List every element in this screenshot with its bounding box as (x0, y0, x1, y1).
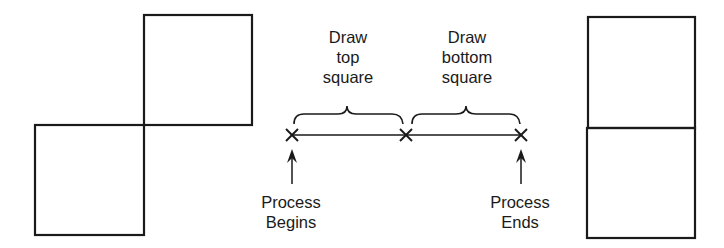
label-draw-bottom-square: Draw bottom square (442, 27, 492, 87)
brace-bottom-square (412, 106, 520, 124)
right-bottom-square (587, 128, 695, 238)
left-bottom-square (35, 125, 144, 235)
label-process-begins: Process Begins (261, 192, 321, 232)
brace-top-square (294, 106, 403, 124)
label-process-ends: Process Ends (490, 192, 550, 232)
left-top-square (144, 15, 252, 125)
label-draw-top-square: Draw top square (323, 27, 373, 87)
right-top-square (588, 17, 695, 128)
